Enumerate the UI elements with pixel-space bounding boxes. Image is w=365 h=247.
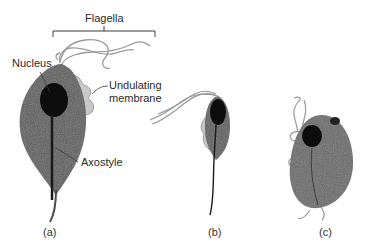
diagram-canvas: Flagella Nucleus Undulating membrane Axo… xyxy=(0,0,365,247)
nucleus-b xyxy=(210,99,226,125)
label-membrane: membrane xyxy=(109,92,162,104)
panel-label-a: (a) xyxy=(43,226,56,238)
organism-c xyxy=(289,97,353,220)
flagella-bracket xyxy=(53,26,155,37)
organism-illustrations xyxy=(0,0,365,247)
nucleus-c xyxy=(302,125,322,147)
label-nucleus: Nucleus xyxy=(12,57,52,69)
label-flagella: Flagella xyxy=(85,12,124,24)
label-axostyle: Axostyle xyxy=(81,156,123,168)
panel-label-c: (c) xyxy=(319,226,332,238)
panel-label-b: (b) xyxy=(208,226,221,238)
flagella-a xyxy=(56,40,150,69)
label-undulating: Undulating xyxy=(109,79,162,91)
organism-b xyxy=(150,91,230,215)
body-c xyxy=(290,115,353,208)
nucleus-a xyxy=(40,83,68,117)
granule-c xyxy=(330,117,340,125)
